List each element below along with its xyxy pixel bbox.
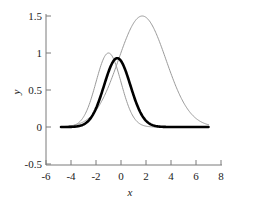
series-wide-tall-gray-gaussian bbox=[61, 16, 209, 127]
y-tick-label-0.5: 0.5 bbox=[28, 84, 42, 96]
x-tick-label-4: 4 bbox=[168, 170, 174, 182]
x-tick-label-minus2: -2 bbox=[91, 170, 100, 182]
series-narrow-gray-gaussian bbox=[61, 53, 209, 127]
x-tick-marks bbox=[46, 160, 221, 165]
y-tick-label-1: 1 bbox=[37, 47, 43, 59]
chart-figure: 1.5 1 0.5 0 -0.5 -6 -4 -2 0 2 4 6 8 x y bbox=[0, 0, 264, 200]
y-axis-title: y bbox=[10, 89, 22, 95]
x-tick-label-6: 6 bbox=[193, 170, 199, 182]
y-tick-label-minus0.5: -0.5 bbox=[25, 158, 43, 170]
x-tick-label-0: 0 bbox=[118, 170, 124, 182]
x-tick-label-8: 8 bbox=[218, 170, 224, 182]
y-tick-label-1.5: 1.5 bbox=[28, 10, 42, 22]
data-curves bbox=[61, 16, 209, 127]
y-tick-label-0: 0 bbox=[37, 121, 43, 133]
plot-area: 1.5 1 0.5 0 -0.5 -6 -4 -2 0 2 4 6 8 x y bbox=[0, 0, 264, 200]
x-tick-label-minus6: -6 bbox=[41, 170, 51, 182]
x-axis-title: x bbox=[127, 186, 133, 198]
y-tick-marks bbox=[46, 16, 51, 164]
x-tick-label-2: 2 bbox=[143, 170, 149, 182]
x-tick-label-minus4: -4 bbox=[66, 170, 76, 182]
